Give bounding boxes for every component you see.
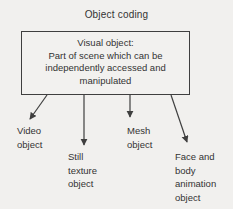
- arrow-to-face-body-animation-object: [171, 95, 187, 142]
- label-video-object: Video object: [17, 124, 42, 151]
- label-face-body-animation-object: Face and body animation object: [175, 150, 216, 204]
- diagram-canvas: Object coding Visual object: Part of sce…: [0, 0, 233, 209]
- label-mesh-object: Mesh object: [127, 124, 152, 151]
- arrow-to-video-object: [30, 95, 47, 119]
- label-still-texture-object: Still texture object: [68, 150, 97, 191]
